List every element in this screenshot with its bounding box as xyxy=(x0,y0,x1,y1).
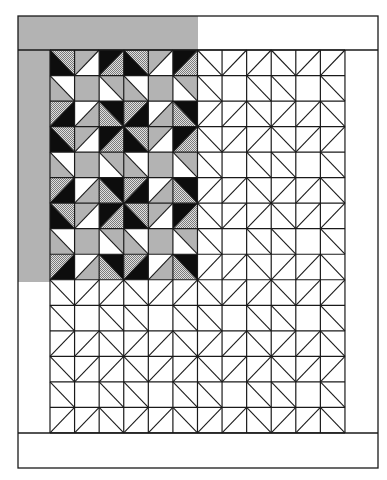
diagonal-line xyxy=(320,382,345,408)
diagonal-line xyxy=(197,50,222,76)
diagonal-line xyxy=(197,356,222,382)
diagonal-line xyxy=(75,356,100,382)
diagonal-line xyxy=(197,203,222,229)
diagonal-line xyxy=(222,50,247,76)
left-border-colored xyxy=(18,50,50,282)
diagonal-line xyxy=(296,178,321,204)
diagonal-line xyxy=(247,382,272,408)
diagonal-line xyxy=(50,356,75,382)
diagonal-line xyxy=(320,280,345,306)
diagonal-line xyxy=(173,407,198,433)
diagonal-line xyxy=(99,331,124,357)
diagonal-line xyxy=(148,356,173,382)
diagonal-line xyxy=(124,331,149,357)
diagonal-line xyxy=(271,76,296,102)
diagonal-line xyxy=(75,280,100,306)
diagonal-line xyxy=(99,382,124,408)
diagonal-line xyxy=(222,356,247,382)
diagonal-line xyxy=(296,280,321,306)
square-solid xyxy=(75,76,100,102)
diagonal-line xyxy=(320,305,345,331)
diagonal-line xyxy=(320,101,345,127)
diagonal-line xyxy=(222,254,247,280)
diagonal-line xyxy=(320,356,345,382)
diagonal-line xyxy=(320,50,345,76)
diagonal-line xyxy=(197,382,222,408)
square-solid xyxy=(148,152,173,178)
diagonal-line xyxy=(247,280,272,306)
diagonal-line xyxy=(320,229,345,255)
diagonal-line xyxy=(247,50,272,76)
diagonal-line xyxy=(320,76,345,102)
diagonal-line xyxy=(247,101,272,127)
diagonal-line xyxy=(124,382,149,408)
diagonal-line xyxy=(173,356,198,382)
diagonal-line xyxy=(247,356,272,382)
diagonal-line xyxy=(173,280,198,306)
diagonal-line xyxy=(320,254,345,280)
diagonal-line xyxy=(222,203,247,229)
diagonal-line xyxy=(271,331,296,357)
diagonal-line xyxy=(271,407,296,433)
diagonal-line xyxy=(197,254,222,280)
diagonal-line xyxy=(271,305,296,331)
diagonal-line xyxy=(222,178,247,204)
diagonal-line xyxy=(271,280,296,306)
diagonal-line xyxy=(197,76,222,102)
diagonal-line xyxy=(247,229,272,255)
diagonal-line xyxy=(124,280,149,306)
diagonal-line xyxy=(148,331,173,357)
square-solid xyxy=(148,229,173,255)
diagonal-line xyxy=(197,178,222,204)
square-solid xyxy=(75,152,100,178)
diagonal-line xyxy=(247,127,272,153)
diagonal-line xyxy=(296,50,321,76)
diagonal-line xyxy=(50,382,75,408)
diagonal-line xyxy=(271,127,296,153)
diagonal-line xyxy=(99,305,124,331)
diagonal-line xyxy=(124,356,149,382)
diagonal-line xyxy=(320,331,345,357)
diagonal-line xyxy=(320,178,345,204)
diagonal-line xyxy=(247,203,272,229)
diagonal-line xyxy=(197,152,222,178)
diagonal-line xyxy=(222,331,247,357)
diagonal-line xyxy=(247,407,272,433)
diagonal-line xyxy=(271,152,296,178)
diagonal-line xyxy=(247,178,272,204)
diagonal-line xyxy=(50,407,75,433)
diagonal-line xyxy=(271,50,296,76)
diagonal-line xyxy=(296,356,321,382)
diagonal-line xyxy=(148,407,173,433)
diagonal-line xyxy=(271,356,296,382)
diagonal-line xyxy=(50,280,75,306)
diagonal-line xyxy=(271,101,296,127)
diagonal-line xyxy=(197,305,222,331)
diagonal-line xyxy=(124,305,149,331)
diagonal-line xyxy=(247,305,272,331)
diagonal-line xyxy=(197,229,222,255)
diagonal-line xyxy=(50,331,75,357)
diagonal-line xyxy=(148,280,173,306)
diagonal-line xyxy=(271,382,296,408)
diagonal-line xyxy=(271,178,296,204)
diagonal-line xyxy=(75,331,100,357)
diagonal-line xyxy=(99,407,124,433)
diagonal-line xyxy=(50,305,75,331)
diagonal-line xyxy=(247,254,272,280)
diagonal-line xyxy=(296,127,321,153)
diagonal-line xyxy=(222,101,247,127)
diagonal-line xyxy=(197,101,222,127)
diagonal-line xyxy=(173,331,198,357)
diagonal-line xyxy=(247,331,272,357)
diagonal-line xyxy=(247,76,272,102)
diagonal-line xyxy=(320,203,345,229)
diagonal-line xyxy=(222,280,247,306)
diagonal-line xyxy=(320,127,345,153)
square-solid xyxy=(75,229,100,255)
diagonal-line xyxy=(222,127,247,153)
diagonal-line xyxy=(320,407,345,433)
diagonal-line xyxy=(320,152,345,178)
diagonal-line xyxy=(99,280,124,306)
diagonal-line xyxy=(75,407,100,433)
